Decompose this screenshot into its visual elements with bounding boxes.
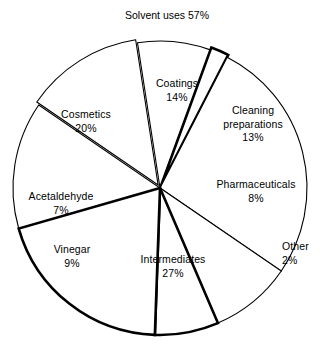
slice-label-cleaning-preparations: Cleaning preparations 13%	[209, 104, 297, 145]
slice-label-acetaldehyde-name: Acetaldehyde	[11, 190, 111, 204]
slice-label-coatings-value: 14%	[137, 91, 217, 105]
slice-label-cleaning-preparations-name-line2: preparations	[209, 118, 297, 132]
slice-label-pharmaceuticals-name: Pharmaceuticals	[200, 178, 312, 192]
slice-label-vinegar-value: 9%	[33, 257, 111, 271]
slice-label-cosmetics-value: 20%	[44, 122, 128, 136]
slice-label-cleaning-preparations-value: 13%	[209, 131, 297, 145]
slice-label-vinegar-name: Vinegar	[33, 243, 111, 257]
slice-label-cosmetics: Cosmetics 20%	[44, 108, 128, 135]
slice-label-acetaldehyde-value: 7%	[11, 204, 111, 218]
slice-label-coatings-name: Coatings	[137, 77, 217, 91]
slice-label-coatings: Coatings 14%	[137, 77, 217, 104]
slice-label-vinegar: Vinegar 9%	[33, 243, 111, 270]
slice-label-intermediates: Intermediates 27%	[117, 253, 229, 280]
slice-label-other-name: Other	[282, 240, 334, 254]
slice-label-acetaldehyde: Acetaldehyde 7%	[11, 190, 111, 217]
slice-label-pharmaceuticals-value: 8%	[200, 192, 312, 206]
slice-label-other-value: 2%	[282, 254, 334, 268]
slice-label-intermediates-value: 27%	[117, 267, 229, 281]
pie-chart-svg	[0, 0, 334, 354]
slice-label-other: Other 2%	[282, 240, 334, 267]
slice-label-cosmetics-name: Cosmetics	[44, 108, 128, 122]
slice-label-pharmaceuticals: Pharmaceuticals 8%	[200, 178, 312, 205]
slice-label-intermediates-name: Intermediates	[117, 253, 229, 267]
slice-label-cleaning-preparations-name-line1: Cleaning	[209, 104, 297, 118]
pie-chart-figure: Solvent uses 57% Coatings 14% Cleaning p…	[0, 0, 334, 354]
